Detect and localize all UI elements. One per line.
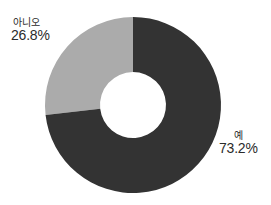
- label-no: 아니오 26.8%: [11, 17, 50, 44]
- label-yes: 예 73.2%: [219, 130, 258, 157]
- label-yes-percent: 73.2%: [219, 141, 258, 157]
- label-no-percent: 26.8%: [11, 28, 50, 44]
- donut-slice-no[interactable]: [45, 17, 133, 115]
- donut-chart: 아니오 26.8% 예 73.2%: [0, 0, 271, 205]
